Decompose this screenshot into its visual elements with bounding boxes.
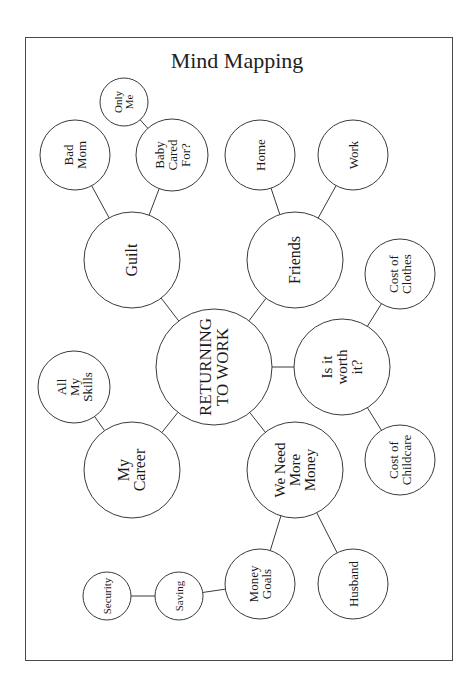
node-label-worth: Is it worth it? — [297, 322, 387, 412]
node-label-center: RETURNING TO WORK — [157, 310, 271, 424]
node-label-childcare: Cost of Childcare — [367, 427, 433, 493]
node-label-goals: Money Goals — [227, 551, 293, 617]
node-label-money: We Need More Money — [250, 425, 340, 515]
node-label-badmom: Bad Mom — [42, 122, 108, 188]
connector-guilt-badmom — [92, 186, 109, 218]
connector-money-goals — [270, 516, 281, 551]
connector-money-husband — [317, 513, 337, 553]
node-label-skills: All My Skills — [41, 354, 107, 420]
node-label-baby: Baby Cared For? — [139, 122, 205, 188]
connector-goals-saving — [203, 589, 226, 592]
node-label-career: My Career — [87, 425, 177, 515]
node-label-clothes: Cost of Clothes — [367, 241, 433, 307]
node-label-onlyme: Only Me — [102, 80, 146, 124]
node-label-work: Work — [320, 122, 386, 188]
node-label-home: Home — [227, 122, 293, 188]
connector-friends-work — [318, 186, 336, 218]
node-label-guilt: Guilt — [87, 215, 177, 305]
connector-guilt-baby — [149, 189, 159, 216]
mind-map-page: Mind Mapping RETURNING TO WORKGuiltFrien… — [0, 0, 474, 692]
node-label-husband: Husband — [320, 551, 386, 617]
node-label-saving: Saving — [156, 573, 202, 619]
connector-friends-home — [271, 188, 280, 214]
node-label-friends: Friends — [250, 215, 340, 305]
node-label-security: Security — [84, 573, 130, 619]
